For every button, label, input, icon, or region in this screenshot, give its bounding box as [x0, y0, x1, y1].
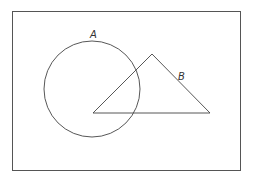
universe-rectangle — [13, 12, 241, 171]
venn-diagram: A B — [0, 0, 256, 179]
set-b-label: B — [178, 71, 185, 82]
set-b-triangle — [93, 54, 210, 113]
set-a-label: A — [89, 29, 97, 40]
set-a-circle — [44, 41, 140, 137]
